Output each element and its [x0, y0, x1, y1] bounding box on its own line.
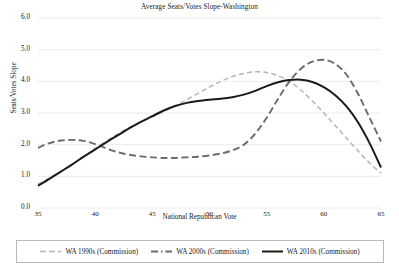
legend-swatch-icon	[262, 248, 283, 255]
legend-label: WA 1990s (Commission)	[65, 248, 138, 256]
chart-legend: WA 1990s (Commission)WA 2000s (Commissio…	[16, 240, 384, 263]
series-line-1	[38, 72, 381, 184]
legend-swatch-icon	[151, 248, 172, 255]
plot-area	[0, 0, 399, 269]
legend-label: WA 2010s (Commission)	[287, 248, 360, 256]
legend-item[interactable]: WA 2010s (Commission)	[262, 248, 360, 256]
legend-swatch-icon	[40, 248, 61, 255]
legend-item[interactable]: WA 1990s (Commission)	[40, 248, 138, 256]
chart-figure: Average Seats/Votes Slope-Washington Sea…	[0, 0, 399, 269]
legend-item[interactable]: WA 2000s (Commission)	[151, 248, 249, 256]
legend-label: WA 2000s (Commission)	[176, 248, 249, 256]
series-line-2	[38, 60, 381, 158]
series-line-3	[38, 80, 381, 186]
